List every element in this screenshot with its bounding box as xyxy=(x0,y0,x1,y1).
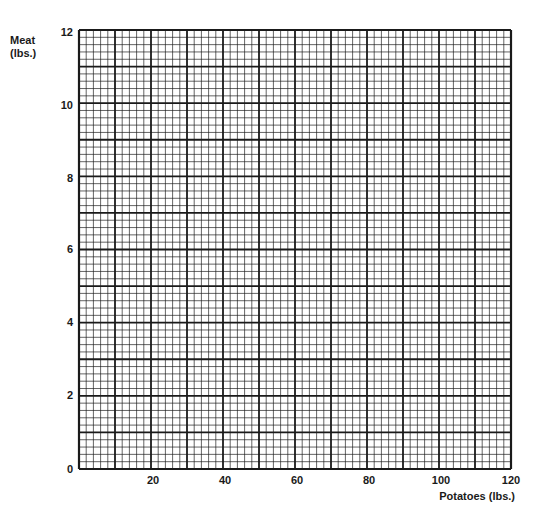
x-axis-label: Potatoes (lbs.) xyxy=(439,490,515,502)
x-tick-120: 120 xyxy=(496,474,526,486)
y-tick-0: 0 xyxy=(53,463,73,475)
x-tick-80: 80 xyxy=(354,474,384,486)
x-tick-20: 20 xyxy=(138,474,168,486)
graph-paper-grid xyxy=(0,0,539,525)
y-tick-2: 2 xyxy=(53,389,73,401)
y-tick-6: 6 xyxy=(53,243,73,255)
y-tick-4: 4 xyxy=(53,316,73,328)
y-tick-8: 8 xyxy=(53,172,73,184)
y-tick-12: 12 xyxy=(53,26,73,38)
x-tick-60: 60 xyxy=(282,474,312,486)
x-tick-100: 100 xyxy=(426,474,456,486)
x-tick-40: 40 xyxy=(210,474,240,486)
y-tick-10: 10 xyxy=(53,99,73,111)
